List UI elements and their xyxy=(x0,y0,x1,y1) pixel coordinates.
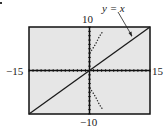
x-min-label: −15 xyxy=(6,66,23,77)
y-max-label: 10 xyxy=(82,14,93,25)
y-min-label: −10 xyxy=(80,117,97,128)
x-max-label: 15 xyxy=(152,66,163,77)
annotation-label: y = x xyxy=(102,3,125,14)
